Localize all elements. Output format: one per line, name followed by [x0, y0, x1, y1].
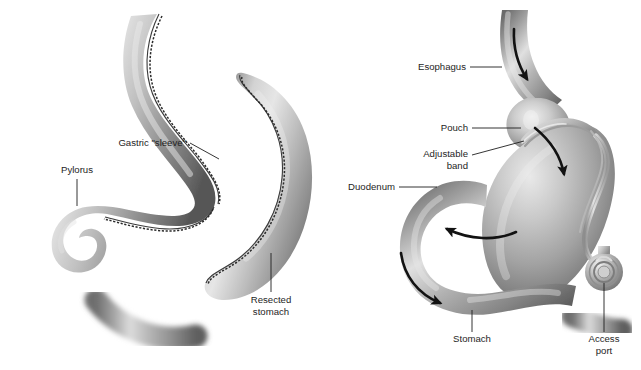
bariatric-surgery-figure: Gastric "sleeve" Pylorus Resected stomac…	[0, 0, 641, 370]
label-gastric-sleeve: Gastric "sleeve"	[118, 137, 186, 148]
label-pouch: Pouch	[441, 122, 468, 133]
label-access-port-line2: port	[596, 345, 613, 356]
label-resected-stomach-line2: stomach	[253, 306, 289, 317]
label-adjustable-band: Adjustable	[423, 148, 468, 159]
illustration-canvas: Gastric "sleeve" Pylorus Resected stomac…	[0, 0, 641, 370]
port-septum	[598, 266, 610, 278]
port-neck	[598, 246, 610, 254]
label-duodenum: Duodenum	[348, 181, 395, 192]
label-resected-stomach: Resected	[251, 294, 292, 305]
label-esophagus: Esophagus	[418, 61, 466, 72]
label-adjustable-band-line2: band	[447, 160, 468, 171]
label-pylorus: Pylorus	[61, 164, 93, 175]
label-access-port: Access	[589, 333, 620, 344]
label-stomach: Stomach	[453, 333, 491, 344]
